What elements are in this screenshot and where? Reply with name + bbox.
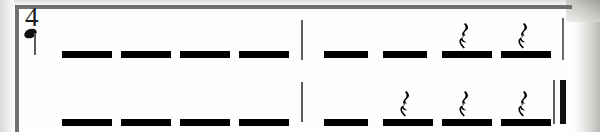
beat-cell bbox=[180, 8, 232, 64]
quarter-rest-icon bbox=[515, 22, 535, 52]
beat-cell bbox=[239, 76, 291, 132]
beat-cell bbox=[121, 8, 173, 64]
beat-cell bbox=[501, 76, 553, 132]
beat-cell bbox=[62, 8, 114, 64]
barline-mid bbox=[301, 20, 303, 60]
staff-row-2 bbox=[0, 76, 600, 132]
beat-cell bbox=[501, 8, 553, 64]
beat-cell bbox=[324, 76, 376, 132]
rhythm-dash bbox=[324, 119, 368, 126]
beat-cell bbox=[62, 76, 114, 132]
barline-row-end bbox=[562, 18, 564, 60]
final-barline-thin bbox=[553, 80, 555, 124]
rhythm-dash bbox=[501, 119, 551, 126]
final-barline-thick bbox=[560, 80, 566, 124]
quarter-rest-icon bbox=[456, 22, 476, 52]
rhythm-dash bbox=[383, 119, 433, 126]
rhythm-dash bbox=[442, 119, 492, 126]
rhythm-dash bbox=[442, 51, 492, 58]
rhythm-sheet: 4 bbox=[0, 0, 600, 132]
barline-mid bbox=[301, 82, 303, 122]
rhythm-dash bbox=[121, 119, 171, 126]
beat-cell bbox=[324, 8, 376, 64]
rhythm-dash bbox=[121, 51, 171, 58]
rhythm-dash bbox=[62, 119, 112, 126]
rhythm-dash bbox=[239, 119, 289, 126]
rhythm-dash bbox=[324, 51, 368, 58]
beat-cell bbox=[442, 8, 494, 64]
rhythm-dash bbox=[239, 51, 289, 58]
beat-cell bbox=[383, 76, 435, 132]
rhythm-dash bbox=[62, 51, 112, 58]
rhythm-dash bbox=[501, 51, 551, 58]
beat-cell bbox=[121, 76, 173, 132]
rhythm-dash bbox=[383, 51, 427, 58]
rhythm-dash bbox=[180, 51, 230, 58]
beat-cell bbox=[442, 76, 494, 132]
quarter-rest-icon bbox=[456, 90, 476, 120]
quarter-rest-icon bbox=[397, 90, 417, 120]
beat-cell bbox=[180, 76, 232, 132]
rhythm-dash bbox=[180, 119, 230, 126]
beat-cell bbox=[383, 8, 435, 64]
beat-cell bbox=[239, 8, 291, 64]
staff-row-1 bbox=[0, 8, 600, 64]
quarter-rest-icon bbox=[515, 90, 535, 120]
